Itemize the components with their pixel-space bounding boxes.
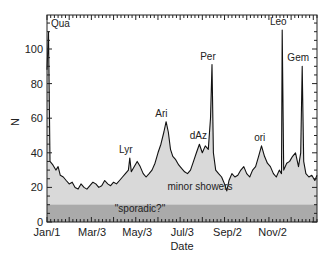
peak-label: dAz (190, 130, 207, 141)
meteor-rate-chart: 020406080100Jan/1Mar/3May/3Jul/3Sep/2Nov… (0, 0, 333, 262)
peak-label: ori (254, 132, 265, 143)
y-tick-label: 80 (31, 78, 43, 90)
peak-label: Lyr (119, 144, 133, 155)
peak-label: Ari (155, 108, 167, 119)
peak-label: Gem (287, 52, 309, 63)
peak-label: Leo (270, 16, 287, 27)
x-tick-label: Mar/3 (78, 226, 106, 238)
x-tick-label: Jul/3 (171, 226, 194, 238)
x-tick-label: Sep/2 (213, 226, 242, 238)
minor-showers-area (47, 30, 317, 222)
rate-line (47, 30, 317, 191)
y-tick-label: 20 (31, 181, 43, 193)
x-tick-label: May/3 (122, 226, 152, 238)
y-tick-label: 100 (25, 43, 43, 55)
minor-showers-label: minor showers (167, 181, 232, 192)
peak-label: Per (200, 51, 216, 62)
sporadic-label: "sporadic?" (115, 203, 166, 214)
x-tick-label: Nov/2 (258, 226, 287, 238)
peak-label: Qua (51, 18, 70, 29)
x-tick-label: Jan/1 (34, 226, 61, 238)
y-tick-label: 60 (31, 112, 43, 124)
plot-area: 020406080100Jan/1Mar/3May/3Jul/3Sep/2Nov… (25, 15, 317, 238)
x-axis-label: Date (170, 240, 193, 252)
y-axis-label: N (9, 118, 21, 126)
y-tick-label: 40 (31, 147, 43, 159)
